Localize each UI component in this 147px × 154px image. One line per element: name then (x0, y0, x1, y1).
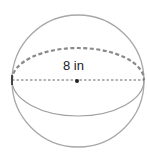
diameter-label: 8 in (63, 58, 84, 73)
equator-front (12, 80, 144, 116)
left-edge-mark (11, 75, 13, 85)
sphere-diagram (0, 0, 147, 154)
center-point (75, 79, 79, 83)
